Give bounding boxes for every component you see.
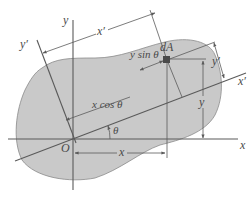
x-dim-label: x (118, 145, 125, 159)
y-sin-theta-label: y sin θ (129, 48, 159, 60)
theta-label: θ (113, 124, 119, 136)
y-dim-label: y (198, 95, 205, 109)
dA-label: dA (160, 40, 174, 54)
x-prime-dim-label: x′ (96, 24, 105, 38)
y-prime-axis-label: y′ (19, 37, 28, 51)
area-element-dA (163, 56, 170, 63)
y-axis-label: y (62, 13, 69, 27)
x-cos-theta-label: x cos θ (91, 98, 123, 110)
rotated-axes-diagram: x′ y′ y x x cos θ y sin θ θ dA y y′ x′ x… (0, 0, 251, 198)
x-prime-axis-label: x′ (237, 74, 246, 88)
y-prime-dim-label: y′ (211, 54, 220, 68)
x-axis-label: x (239, 138, 246, 152)
origin-label: O (61, 141, 70, 155)
